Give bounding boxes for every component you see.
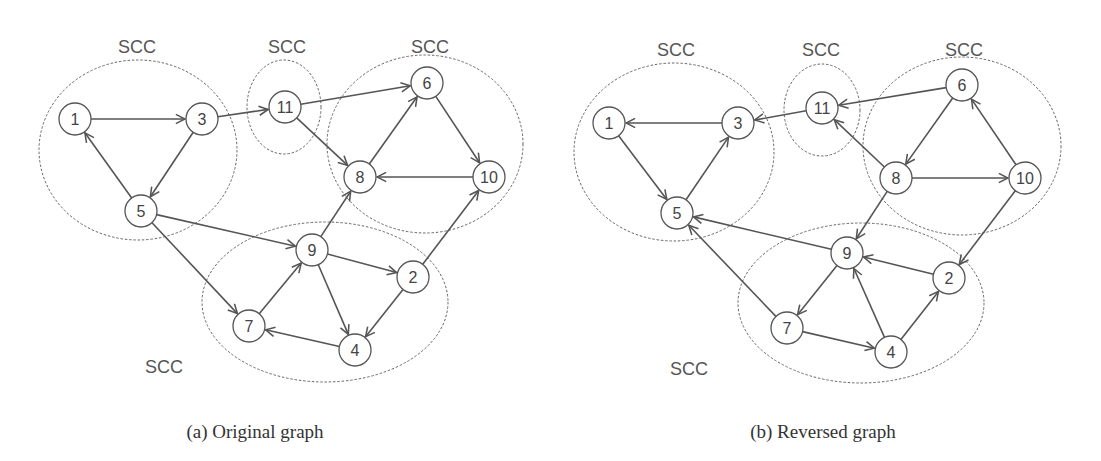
node-label: 10 xyxy=(480,169,498,186)
edge-7-to-4 xyxy=(803,332,875,349)
edge-9-to-2 xyxy=(328,254,397,273)
node-label: 5 xyxy=(673,205,682,222)
edge-8-to-11 xyxy=(834,120,884,167)
edge-9-to-8 xyxy=(321,191,351,236)
edge-4-to-2 xyxy=(901,291,939,339)
node-10: 10 xyxy=(1009,162,1041,194)
node-6: 6 xyxy=(946,69,978,101)
node-label: 1 xyxy=(71,111,80,128)
edge-2-to-10 xyxy=(423,191,479,265)
node-10: 10 xyxy=(473,161,505,193)
node-7: 7 xyxy=(233,310,265,342)
node-11: 11 xyxy=(806,92,838,124)
node-9: 9 xyxy=(296,234,328,266)
edge-4-to-7 xyxy=(266,330,340,347)
node-8: 8 xyxy=(344,161,376,193)
edge-7-to-5 xyxy=(689,225,776,316)
node-label: 8 xyxy=(356,169,365,186)
node-5: 5 xyxy=(661,197,693,229)
node-label: 4 xyxy=(887,344,896,361)
node-6: 6 xyxy=(411,67,443,99)
node-1: 1 xyxy=(593,107,625,139)
scc-label: SCC xyxy=(802,40,840,60)
node-label: 3 xyxy=(198,111,207,128)
panel-caption: (b) Reversed graph xyxy=(750,421,896,443)
edge-9-to-5 xyxy=(694,217,832,249)
node-label: 7 xyxy=(783,320,792,337)
node-label: 9 xyxy=(843,245,852,262)
edge-6-to-8 xyxy=(906,98,953,164)
node-label: 8 xyxy=(892,170,901,187)
panel-caption: (a) Original graph xyxy=(186,421,324,443)
edge-5-to-9 xyxy=(157,215,296,247)
node-2: 2 xyxy=(933,262,965,294)
scc-label: SCC xyxy=(657,40,695,60)
edge-11-to-3 xyxy=(755,111,807,120)
edge-1-to-5 xyxy=(619,136,667,200)
edge-6-to-11 xyxy=(839,88,946,106)
node-label: 10 xyxy=(1016,170,1034,187)
panel-original-graph: SCCSCCSCCSCC1351168109274(a) Original gr… xyxy=(39,37,523,443)
edge-11-to-6 xyxy=(301,86,410,105)
node-label: 6 xyxy=(958,77,967,94)
scc-label: SCC xyxy=(945,40,983,60)
node-3: 3 xyxy=(186,103,218,135)
scc-label: SCC xyxy=(670,359,708,379)
edge-7-to-9 xyxy=(259,263,301,314)
node-4: 4 xyxy=(875,336,907,368)
edge-9-to-7 xyxy=(798,266,837,315)
scc-label: SCC xyxy=(145,357,183,377)
node-label: 11 xyxy=(814,100,831,117)
scc-figure: SCCSCCSCCSCC1351168109274(a) Original gr… xyxy=(0,0,1101,461)
edge-10-to-6 xyxy=(972,99,1017,165)
node-1: 1 xyxy=(59,103,91,135)
node-label: 6 xyxy=(423,75,432,92)
node-label: 5 xyxy=(137,203,146,220)
edge-3-to-5 xyxy=(150,132,193,197)
edge-6-to-10 xyxy=(436,96,480,162)
node-4: 4 xyxy=(339,334,371,366)
node-8: 8 xyxy=(880,162,912,194)
node-label: 11 xyxy=(277,99,294,116)
node-label: 2 xyxy=(945,270,954,287)
edge-10-to-2 xyxy=(959,191,1015,265)
node-label: 4 xyxy=(351,342,360,359)
panel-reversed-graph: SCCSCCSCCSCC1351168109274(b) Reversed gr… xyxy=(574,40,1061,443)
node-5: 5 xyxy=(125,195,157,227)
edge-11-to-8 xyxy=(297,118,348,165)
node-label: 1 xyxy=(605,115,614,132)
node-11: 11 xyxy=(269,91,301,123)
edge-2-to-9 xyxy=(864,257,934,274)
node-2: 2 xyxy=(397,261,429,293)
scc-label: SCC xyxy=(268,37,306,57)
node-label: 7 xyxy=(245,318,254,335)
edge-5-to-3 xyxy=(686,137,729,200)
edge-8-to-9 xyxy=(856,191,887,238)
edge-5-to-7 xyxy=(152,223,237,314)
edge-4-to-9 xyxy=(854,269,885,338)
figure-canvas: SCCSCCSCCSCC1351168109274(a) Original gr… xyxy=(0,0,1101,461)
node-9: 9 xyxy=(831,237,863,269)
node-label: 9 xyxy=(308,242,317,259)
edge-2-to-4 xyxy=(366,290,403,337)
edge-9-to-4 xyxy=(318,265,348,335)
node-3: 3 xyxy=(722,107,754,139)
node-label: 3 xyxy=(734,115,743,132)
edge-8-to-6 xyxy=(369,97,417,164)
edge-5-to-1 xyxy=(85,133,132,198)
node-7: 7 xyxy=(771,312,803,344)
node-label: 2 xyxy=(409,269,418,286)
scc-label: SCC xyxy=(411,37,449,57)
scc-label: SCC xyxy=(118,37,156,57)
edge-3-to-11 xyxy=(218,109,268,116)
